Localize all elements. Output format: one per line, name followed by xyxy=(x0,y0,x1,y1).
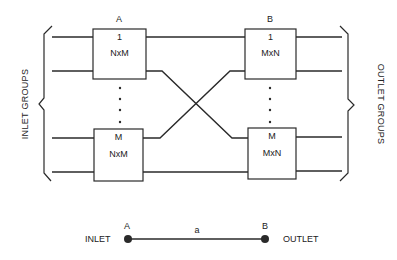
legend-node-a-label: A xyxy=(124,221,130,231)
clos-network-diagram: INLET GROUPS OUTLET GROUPS A B 1 NxM M N… xyxy=(0,0,397,260)
link-a1-bM xyxy=(146,71,248,138)
outlet-groups-label: OUTLET GROUPS xyxy=(376,64,386,145)
outlet-groups-brace xyxy=(340,26,354,181)
switch-index: 1 xyxy=(268,32,273,42)
switch-b-1: 1 MxN xyxy=(245,29,296,79)
switch-a-m: M NxM xyxy=(94,129,143,181)
legend-node-b xyxy=(261,235,269,243)
legend-node-a xyxy=(124,235,132,243)
inlet-groups-label: INLET GROUPS xyxy=(20,69,30,139)
link-aM-b1 xyxy=(143,71,245,138)
stage-a-label: A xyxy=(116,14,122,24)
switch-type: MxN xyxy=(261,48,280,58)
legend-outlet-label: OUTLET xyxy=(283,234,319,244)
switch-type: NxM xyxy=(110,48,129,58)
legend-graph: INLET A a B OUTLET xyxy=(85,221,319,244)
switch-b-m: M MxN xyxy=(248,128,296,179)
legend-link-label: a xyxy=(194,225,199,235)
inlet-groups-brace xyxy=(39,26,52,181)
switch-type: MxN xyxy=(263,148,282,158)
legend-inlet-label: INLET xyxy=(85,234,111,244)
switch-index: M xyxy=(115,132,123,142)
switch-index: 1 xyxy=(117,32,122,42)
ellipsis-stage-b xyxy=(269,87,271,123)
ellipsis-stage-a xyxy=(119,87,121,123)
legend-node-b-label: B xyxy=(262,221,268,231)
switch-index: M xyxy=(268,131,276,141)
stage-b-label: B xyxy=(267,14,273,24)
switch-type: NxM xyxy=(109,149,128,159)
switch-a-1: 1 NxM xyxy=(93,29,146,79)
